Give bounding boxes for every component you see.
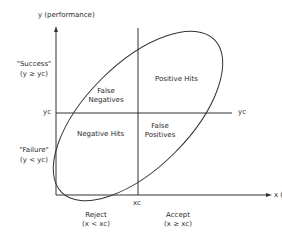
diagram-canvas: [0, 0, 282, 237]
y-axis-arrow-icon: [54, 26, 58, 32]
x-threshold-label: xc: [133, 199, 141, 208]
quadrant-positive-hits: Positive Hits: [155, 75, 198, 84]
quadrant-false-positives-1: False: [140, 122, 180, 131]
reject-label: Reject: [76, 211, 116, 220]
y-threshold-label-right: yc: [238, 108, 246, 117]
reject-condition: (x < xc): [76, 220, 116, 229]
failure-label: "Failure": [14, 146, 54, 155]
success-label: "Success": [14, 60, 54, 69]
quadrant-false-positives-2: Positives: [140, 131, 180, 140]
accept-label: Accept: [158, 211, 198, 220]
y-axis-label: y (performance): [38, 11, 95, 20]
accept-condition: (x ≥ xc): [158, 220, 198, 229]
x-axis-label: x (judgment): [274, 191, 282, 200]
quadrant-negative-hits: Negative Hits: [77, 130, 124, 139]
quadrant-false-negatives-1: False: [86, 87, 126, 96]
success-condition: (y ≥ yc): [14, 70, 54, 79]
failure-condition: (y < yc): [14, 156, 54, 165]
quadrant-false-negatives-2: Negatives: [86, 96, 126, 105]
y-threshold-label-left: yc: [43, 108, 51, 117]
x-axis-arrow-icon: [266, 193, 272, 197]
